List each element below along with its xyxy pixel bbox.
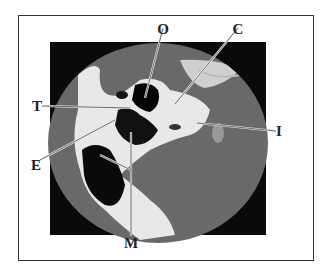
label-c: C [233, 22, 244, 37]
label-m: M [124, 236, 138, 251]
label-t: T [32, 99, 42, 114]
label-i: I [276, 124, 282, 139]
label-o: O [157, 22, 169, 37]
label-e: E [31, 158, 41, 173]
